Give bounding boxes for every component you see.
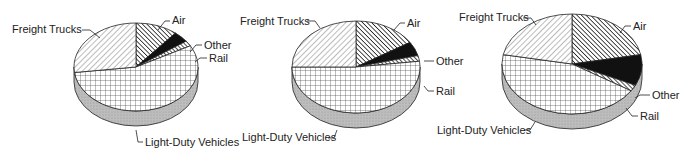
label-rail: Rail <box>436 85 455 97</box>
label-light-duty-vehicles: Light-Duty Vehicles <box>242 131 337 143</box>
pie-slice-freight-trucks <box>292 21 356 67</box>
label-air: Air <box>407 17 421 29</box>
pie-charts: Freight Trucks Air Other Rail Light-Duty… <box>0 0 692 151</box>
label-rail: Rail <box>209 52 228 64</box>
label-other: Other <box>204 39 232 51</box>
pie-slice-freight-trucks <box>74 23 136 73</box>
label-air: Air <box>172 14 186 26</box>
pie-chart-1 <box>74 23 198 126</box>
label-freight-trucks: Freight Trucks <box>459 11 529 23</box>
label-light-duty-vehicles: Light-Duty Vehicles <box>437 124 532 136</box>
label-rail: Rail <box>640 110 659 122</box>
label-other: Other <box>436 55 464 67</box>
label-freight-trucks: Freight Trucks <box>240 15 310 27</box>
leader-line <box>394 23 405 30</box>
label-other: Other <box>652 89 680 101</box>
label-air: Air <box>633 20 647 32</box>
label-light-duty-vehicles: Light-Duty Vehicles <box>145 136 240 148</box>
leader-line <box>424 86 434 91</box>
label-freight-trucks: Freight Trucks <box>12 23 82 35</box>
pie-chart-2 <box>292 21 420 128</box>
leader-line <box>136 130 143 142</box>
